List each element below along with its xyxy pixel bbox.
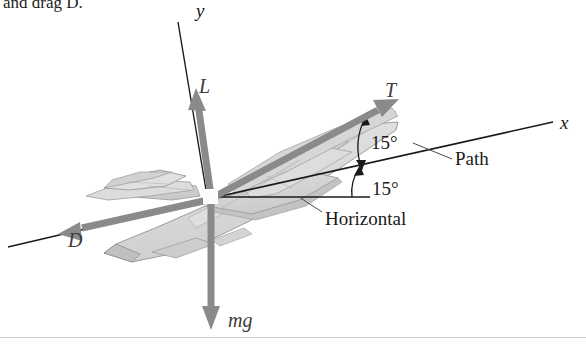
diagram-canvas <box>0 0 586 350</box>
x-axis-label: x <box>560 113 568 132</box>
drag-label: D <box>68 230 82 250</box>
lift-label: L <box>199 76 210 96</box>
flight-path-angle-label: 15° <box>372 179 399 198</box>
angle-of-attack-label: 15° <box>371 133 398 152</box>
horizontal-label: Horizontal <box>325 209 406 228</box>
thrust-label: T <box>385 80 396 100</box>
lift-vector <box>188 88 211 196</box>
force-application-point-inner <box>205 191 216 202</box>
path-label: Path <box>455 149 489 168</box>
weight-label: mg <box>228 310 252 330</box>
caption-fragment: and drag D. <box>3 0 83 13</box>
aircraft-free-body-diagram: and drag D. y x L T D mg 15° 15° Path Ho… <box>0 0 586 350</box>
y-axis-label: y <box>196 1 204 20</box>
